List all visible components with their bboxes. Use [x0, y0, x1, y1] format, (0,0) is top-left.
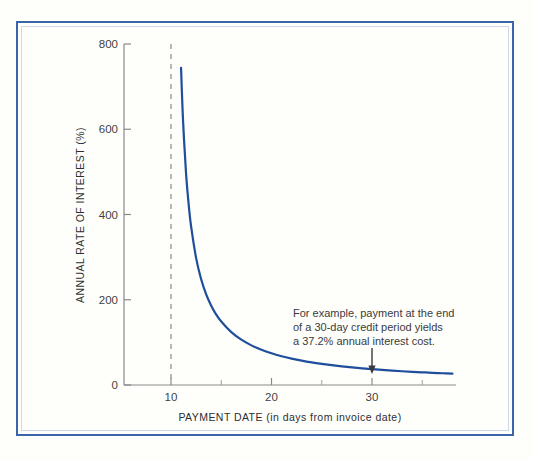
x-axis-title: PAYMENT DATE (in days from invoice date): [178, 411, 401, 423]
y-tick-label-0: 0: [112, 379, 118, 391]
plot-area: 0 200 400 600 800 10 20 30 For: [0, 0, 533, 461]
callout-text-line-1: For example, payment at the end: [293, 307, 454, 319]
x-axis-major-ticks: [171, 378, 372, 385]
y-axis-title: ANNUAL RATE OF INTEREST (%): [74, 127, 86, 303]
chart-figure: 0 200 400 600 800 10 20 30 For: [0, 0, 533, 461]
y-tick-label-800: 800: [99, 38, 118, 50]
y-tick-label-400: 400: [99, 209, 118, 221]
y-tick-label-200: 200: [99, 294, 118, 306]
y-axis-ticks: [124, 44, 131, 385]
y-tick-label-600: 600: [99, 123, 118, 135]
x-tick-label-30: 30: [366, 391, 379, 403]
callout-text-line-2: of a 30-day credit period yields: [293, 321, 443, 333]
callout-text-line-3: a 37.2% annual interest cost.: [293, 335, 435, 347]
x-tick-label-20: 20: [265, 391, 278, 403]
x-axis-minor-ticks: [221, 380, 422, 385]
x-tick-label-10: 10: [165, 391, 178, 403]
